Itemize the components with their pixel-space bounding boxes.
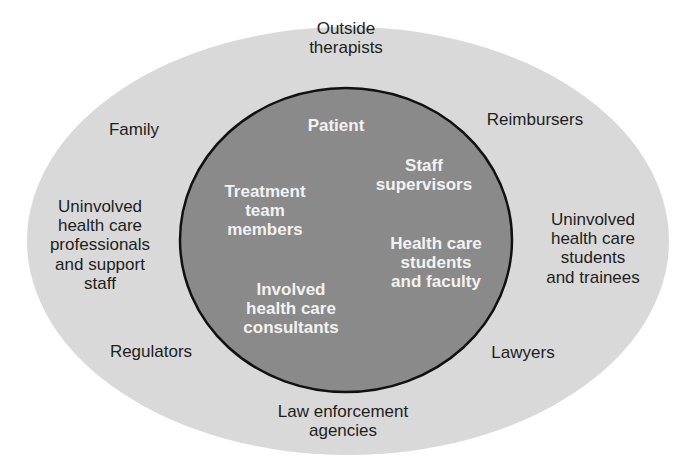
label-lawyers: Lawyers xyxy=(491,343,554,362)
label-reimbursers: Reimbursers xyxy=(487,110,583,129)
label-family: Family xyxy=(109,120,159,139)
label-staff-supervisors: Staff supervisors xyxy=(376,156,472,194)
label-law-enforcement: Law enforcement agencies xyxy=(278,402,408,440)
label-uninvolved-students: Uninvolved health care students and trai… xyxy=(546,210,640,287)
label-health-care-students-faculty: Health care students and faculty xyxy=(390,234,482,292)
confidentiality-circles-diagram: Outside therapists Family Reimbursers Un… xyxy=(0,0,681,472)
label-involved-consultants: Involved health care consultants xyxy=(243,280,338,338)
label-outside-therapists: Outside therapists xyxy=(309,19,383,57)
label-regulators: Regulators xyxy=(110,342,192,361)
label-uninvolved-professionals: Uninvolved health care professionals and… xyxy=(50,197,150,293)
label-treatment-team: Treatment team members xyxy=(224,182,305,240)
label-patient: Patient xyxy=(308,116,365,135)
